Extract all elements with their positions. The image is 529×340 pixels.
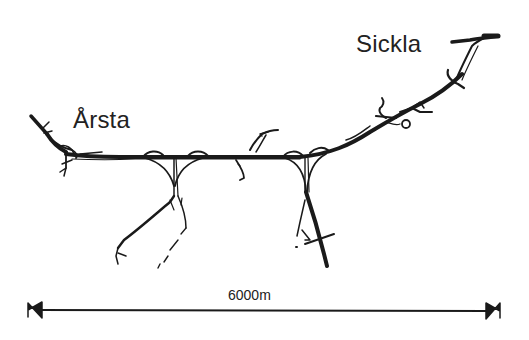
southern-branch-road <box>296 192 334 266</box>
place-label-arsta: Årsta <box>73 108 130 132</box>
southwest-branch-road <box>116 196 186 268</box>
scale-arrow-right-icon <box>486 303 500 319</box>
place-label-sickla: Sickla <box>356 32 421 56</box>
scale-bar <box>28 302 500 319</box>
scale-bar-label: 6000m <box>228 288 271 302</box>
scale-arrow-left-icon <box>28 302 42 318</box>
sickla-interchange <box>448 36 498 88</box>
